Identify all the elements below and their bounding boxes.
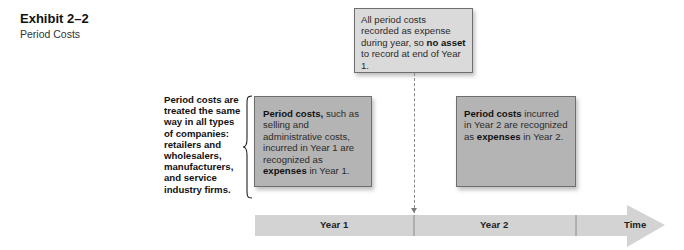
- timeline-time-label: Time: [624, 219, 646, 230]
- right-bold-2: expenses: [477, 131, 521, 142]
- left-text-2: in Year 1.: [307, 165, 350, 176]
- right-bold-1: Period costs: [464, 108, 522, 119]
- top-text-2: to record at end of Year 1.: [361, 48, 461, 70]
- arrowhead-down-icon: [411, 208, 417, 213]
- timeline-year2-label: Year 2: [480, 219, 508, 230]
- exhibit-title: Period Costs: [20, 28, 80, 40]
- right-text-2: in Year 2.: [521, 131, 564, 142]
- side-note: Period costs are treated the same way in…: [164, 94, 244, 195]
- top-bold-1: no asset: [427, 37, 466, 48]
- curly-brace-icon: [242, 95, 254, 199]
- left-bold-2: expenses: [263, 165, 307, 176]
- exhibit-number: Exhibit 2–2: [20, 11, 89, 26]
- year2-period-costs-box: Period costs incurred in Year 2 are reco…: [456, 96, 576, 187]
- left-bold-1: Period costs,: [263, 108, 323, 119]
- dashed-connector: [414, 73, 415, 213]
- timeline-year1-label: Year 1: [320, 219, 348, 230]
- year1-period-costs-box: Period costs, such as selling and admini…: [254, 96, 372, 187]
- top-note-box: All period costs recorded as expense dur…: [354, 8, 473, 73]
